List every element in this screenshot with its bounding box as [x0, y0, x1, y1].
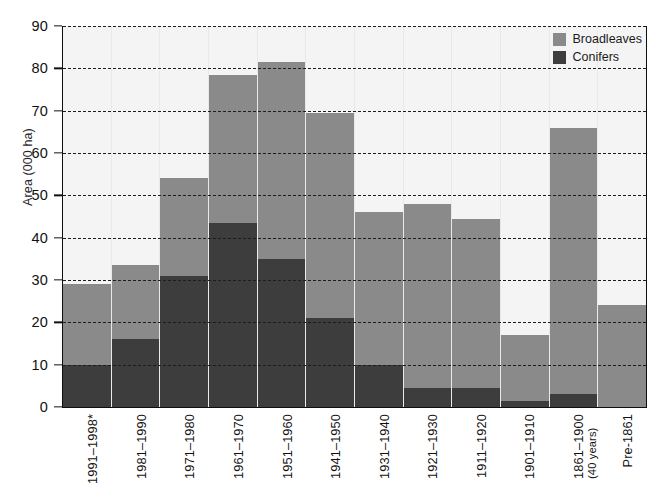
x-axis-tick: 1981–1990: [111, 412, 160, 491]
bar-segment-conifers[interactable]: [306, 318, 354, 407]
bar-segment-conifers[interactable]: [209, 223, 257, 407]
x-axis-tick-label-main: 1901–1910: [522, 414, 537, 479]
x-axis-tick: 1941–1950: [305, 412, 354, 491]
y-axis: 0102030405060708090: [0, 0, 62, 491]
bar-segment-conifers[interactable]: [355, 365, 403, 407]
x-axis-tick-label-main: 1911–1920: [474, 414, 489, 478]
bar-segment-conifers[interactable]: [452, 388, 500, 407]
bar-segment-broadleaves[interactable]: [209, 75, 257, 223]
y-axis-tick-mark: [54, 110, 62, 111]
x-axis-tick-label-main: Pre-1861: [620, 414, 635, 467]
x-axis-tick-label: 1931–1940: [378, 414, 392, 479]
x-axis-tick-label: 1981–1990: [135, 414, 149, 479]
bar-segment-conifers[interactable]: [160, 276, 208, 407]
x-axis-tick-label-main: 1981–1990: [134, 414, 149, 479]
x-axis-tick: 1951–1960: [256, 412, 305, 491]
x-axis-tick: 1991–1998*: [62, 412, 111, 491]
bar-column[interactable]: [112, 26, 161, 407]
x-axis-tick-label: 1861–1900(40 years): [572, 414, 598, 479]
bar-segment-broadleaves[interactable]: [112, 265, 160, 339]
x-axis-tick-label-main: 1961–1970: [231, 414, 246, 479]
x-axis-tick-label-main: 1941–1950: [328, 414, 343, 479]
y-axis-tick-label: 80: [31, 61, 48, 76]
bar-segment-broadleaves[interactable]: [598, 305, 646, 407]
bar-column[interactable]: [598, 26, 646, 407]
y-axis-tick-label: 60: [31, 146, 48, 161]
legend-item-label: Broadleaves: [573, 33, 643, 46]
legend-item[interactable]: Broadleaves: [553, 32, 643, 47]
bar-segment-broadleaves[interactable]: [63, 284, 111, 364]
legend-item-label: Conifers: [573, 51, 620, 64]
bar-column[interactable]: [306, 26, 355, 407]
bar-segment-broadleaves[interactable]: [355, 212, 403, 364]
bar-column[interactable]: [160, 26, 209, 407]
x-axis-tick: Pre-1861: [596, 412, 645, 491]
y-axis-tick-label: 30: [31, 273, 48, 288]
bar-segment-broadleaves[interactable]: [550, 128, 598, 395]
bar-segment-conifers[interactable]: [112, 339, 160, 407]
x-axis-tick: 1861–1900(40 years): [548, 412, 597, 491]
x-axis-tick: 1961–1970: [208, 412, 257, 491]
x-axis-tick: 1911–1920: [451, 412, 500, 491]
plot-area: [62, 26, 647, 408]
bar-segment-broadleaves[interactable]: [258, 62, 306, 259]
y-axis-tick-mark: [54, 364, 62, 365]
bar-segment-conifers[interactable]: [501, 401, 549, 407]
bar-segment-broadleaves[interactable]: [501, 335, 549, 401]
bar-series-group: [63, 26, 646, 407]
bar-segment-conifers[interactable]: [550, 394, 598, 407]
bar-segment-broadleaves[interactable]: [160, 178, 208, 275]
bar-column[interactable]: [258, 26, 307, 407]
y-axis-tick-label: 40: [31, 230, 48, 245]
x-axis-tick: 1901–1910: [499, 412, 548, 491]
bar-segment-broadleaves[interactable]: [404, 204, 452, 388]
bar-segment-conifers[interactable]: [404, 388, 452, 407]
x-axis-tick-label: 1971–1980: [183, 414, 197, 479]
bar-segment-broadleaves[interactable]: [306, 113, 354, 318]
x-axis-tick-label-main: 1971–1980: [182, 414, 197, 479]
x-axis-tick: 1971–1980: [159, 412, 208, 491]
x-axis-tick-label: 1951–1960: [281, 414, 295, 479]
x-axis-tick-label-main: 1991–1998*: [85, 414, 100, 484]
y-axis-tick-mark: [54, 25, 62, 26]
stacked-bar-chart: Area (000 ha) 0102030405060708090 Broadl…: [0, 0, 660, 491]
bar-segment-broadleaves[interactable]: [452, 219, 500, 388]
x-axis-tick-label-main: 1931–1940: [377, 414, 392, 479]
x-axis-tick: 1921–1930: [402, 412, 451, 491]
x-axis-tick: 1931–1940: [353, 412, 402, 491]
bar-column[interactable]: [501, 26, 550, 407]
x-axis-tick-label: 1921–1930: [426, 414, 440, 479]
y-axis-tick-mark: [54, 406, 62, 407]
y-axis-tick-mark: [54, 152, 62, 153]
legend-color-swatch: [553, 51, 566, 64]
y-axis-tick-label: 70: [31, 103, 48, 118]
bar-column[interactable]: [452, 26, 501, 407]
y-axis-tick-label: 0: [40, 400, 48, 415]
y-axis-tick-label: 20: [31, 315, 48, 330]
x-axis-tick-label: 1991–1998*: [86, 414, 100, 484]
bar-segment-conifers[interactable]: [258, 259, 306, 407]
bar-column[interactable]: [209, 26, 258, 407]
bar-column[interactable]: [355, 26, 404, 407]
bar-column[interactable]: [550, 26, 599, 407]
x-axis-tick-label: Pre-1861: [621, 414, 635, 467]
legend-color-swatch: [553, 33, 566, 46]
x-axis-tick-label-main: 1921–1930: [425, 414, 440, 479]
x-axis-tick-label-main: 1861–1900: [571, 414, 586, 479]
y-axis-tick-label: 10: [31, 357, 48, 372]
x-axis: 1991–1998*1981–19901971–19801961–1970195…: [62, 412, 645, 491]
x-axis-tick-label: 1901–1910: [523, 414, 537, 479]
x-axis-tick-label: 1961–1970: [232, 414, 246, 479]
y-axis-tick-label: 90: [31, 19, 48, 34]
x-axis-tick-label: 1911–1920: [475, 414, 489, 478]
y-axis-tick-mark: [54, 68, 62, 69]
bar-column[interactable]: [404, 26, 453, 407]
x-axis-tick-label: 1941–1950: [329, 414, 343, 479]
bar-segment-conifers[interactable]: [63, 365, 111, 407]
legend-item[interactable]: Conifers: [553, 50, 643, 65]
x-axis-tick-label-main: 1951–1960: [280, 414, 295, 479]
y-axis-tick-label: 50: [31, 188, 48, 203]
bar-column[interactable]: [63, 26, 112, 407]
y-axis-tick-mark: [54, 237, 62, 238]
y-axis-tick-mark: [54, 279, 62, 280]
